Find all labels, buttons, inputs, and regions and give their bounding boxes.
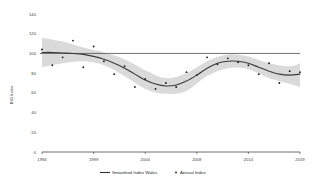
x-tick-1994: 1994 [37,157,47,162]
data-point [165,82,167,84]
data-point [113,73,115,75]
x-tick-2004: 2004 [141,157,151,162]
y-tick-20: 20 [31,130,36,135]
x-tick-1999: 1999 [89,157,99,162]
data-point [72,40,74,42]
data-point [93,46,95,48]
data-point [41,49,43,51]
index-trend-chart: 204060801001201400 199419992004200920142… [0,0,320,187]
y-tick-80: 80 [31,71,36,76]
data-point [186,71,188,73]
y-tick-120: 120 [29,31,37,36]
data-point [124,65,126,67]
data-point [51,64,53,66]
chart-legend: Smoothed Index Wales Annual Index [100,170,206,175]
data-point [278,82,280,84]
y-tick-100: 100 [29,51,37,56]
y-tick-40: 40 [31,110,36,115]
y-tick-60: 60 [31,90,36,95]
data-point [196,74,198,76]
data-point [134,86,136,88]
data-point [175,86,177,88]
data-point [289,70,291,72]
data-point [82,66,84,68]
data-point [103,60,105,62]
legend-label-smoothed: Smoothed Index Wales [112,170,158,175]
data-point [144,78,146,80]
data-point [247,64,249,66]
y-axis-title: BIG Index [9,85,14,105]
data-point [216,63,218,65]
x-tick-2014: 2014 [244,157,254,162]
data-point [237,61,239,63]
data-point [155,88,157,90]
chart-background [0,0,320,187]
data-point [258,73,260,75]
y-tick-140: 140 [29,12,37,17]
data-point [206,56,208,58]
data-point [268,62,270,64]
x-tick-2009: 2009 [192,157,202,162]
x-tick-2019: 2019 [295,157,305,162]
legend-dot-marker [175,172,177,174]
data-point [227,57,229,59]
data-point [299,71,301,73]
legend-label-annual: Annual Index [180,170,206,175]
data-point [62,56,64,58]
chart-container: 204060801001201400 199419992004200920142… [0,0,320,187]
